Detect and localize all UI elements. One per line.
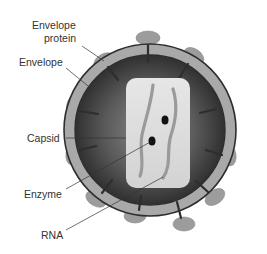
label-envelope: Envelope — [19, 56, 63, 68]
label-envelope-protein-line2: protein — [44, 32, 76, 44]
virus-diagram: Envelope protein Envelope Capsid Enzyme … — [0, 0, 267, 254]
envelope-protein-spike — [136, 31, 160, 45]
envelope-protein-spike — [173, 217, 195, 231]
label-rna: RNA — [41, 229, 63, 241]
label-enzyme: Enzyme — [24, 188, 62, 200]
label-envelope-protein-line1: Envelope — [32, 19, 76, 31]
leader-envelope-protein — [82, 46, 104, 61]
enzyme-dot — [162, 116, 169, 125]
label-capsid: Capsid — [27, 132, 60, 144]
capsid — [126, 78, 190, 188]
